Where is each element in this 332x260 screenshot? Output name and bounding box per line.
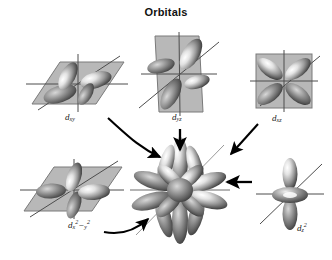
arrow-layer bbox=[0, 0, 332, 260]
orbitals-figure: Orbitals bbox=[0, 0, 332, 260]
arrow-dxy-to-composite bbox=[108, 118, 160, 157]
arrow-dx2y2-to-composite bbox=[104, 219, 148, 233]
arrow-dxz-to-composite bbox=[231, 124, 258, 154]
